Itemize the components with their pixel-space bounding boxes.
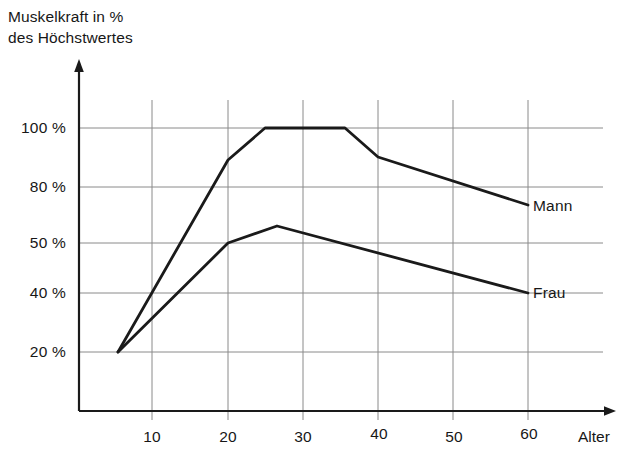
gridlines-group — [79, 100, 603, 420]
mann-polyline — [118, 128, 528, 352]
y-axis-arrowhead — [74, 59, 84, 72]
y-tick-label-50: 50 % — [0, 234, 66, 252]
series-label-frau: Frau — [533, 284, 566, 302]
y-tick-label-40: 40 % — [0, 284, 66, 302]
x-tick-label-10: 10 — [143, 428, 161, 446]
x-tick-label-30: 30 — [294, 428, 312, 446]
x-tick-label-60: 60 — [520, 425, 538, 443]
y-tick-label-20: 20 % — [0, 343, 66, 361]
x-tick-label-50: 50 — [445, 428, 463, 446]
chart-plot-area — [0, 0, 621, 455]
y-tick-label-80: 80 % — [0, 178, 66, 196]
y-tick-label-100: 100 % — [0, 119, 66, 137]
chart-x-axis-title: Alter — [578, 428, 610, 446]
x-tick-label-20: 20 — [219, 428, 237, 446]
axes-group — [74, 59, 616, 416]
x-axis-arrowhead — [604, 406, 616, 415]
series-line-mann — [118, 128, 528, 352]
series-label-mann: Mann — [533, 197, 573, 215]
x-tick-label-40: 40 — [370, 425, 388, 443]
muskelkraft-line-chart: Muskelkraft in %des Höchstwertes — [0, 0, 621, 455]
